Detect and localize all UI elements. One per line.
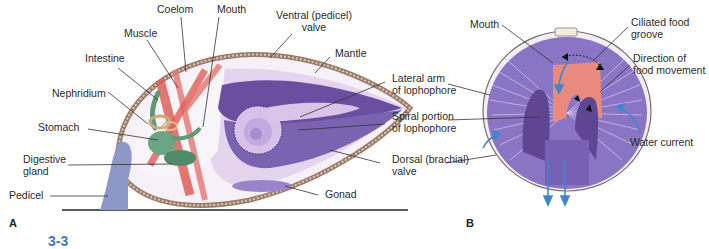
- label-mouth-a: Mouth: [217, 3, 246, 15]
- label-mouth-b: Mouth: [470, 18, 499, 30]
- label-ventral-valve: Ventral (pedicel) valve: [276, 9, 352, 33]
- label-ciliated-groove: Ciliated food groove: [631, 16, 689, 40]
- label-digestive-gland: Digestive gland: [23, 153, 66, 177]
- label-pedicel: Pedicel: [9, 189, 43, 201]
- label-water-current: Water current: [630, 136, 693, 148]
- label-spiral-portion: Spiral portion of lophophore: [392, 110, 456, 134]
- panel-b-illustration: [483, 28, 651, 205]
- label-intestine: Intestine: [85, 52, 125, 64]
- panel-letter-b: B: [466, 217, 474, 229]
- label-dorsal-valve: Dorsal (brachial) valve: [392, 153, 469, 177]
- label-nephridium: Nephridium: [52, 87, 106, 99]
- panel-letter-a: A: [9, 217, 17, 229]
- label-mantle: Mantle: [335, 47, 367, 59]
- label-gonad: Gonad: [325, 188, 357, 200]
- label-lateral-arm: Lateral arm of lophophore: [392, 72, 456, 96]
- label-muscle: Muscle: [124, 27, 157, 39]
- panel-a-illustration: [62, 55, 410, 210]
- label-coelom: Coelom: [157, 3, 193, 15]
- label-stomach: Stomach: [38, 121, 79, 133]
- label-food-direction: Direction of food movement: [633, 52, 705, 76]
- figure-number: 3-3: [48, 233, 68, 249]
